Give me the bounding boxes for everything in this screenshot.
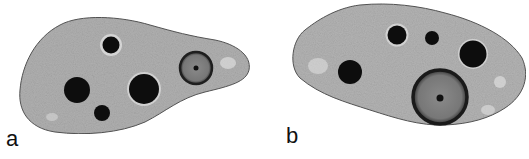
nucleolus bbox=[437, 95, 444, 102]
vacuole bbox=[338, 60, 362, 84]
vacuole bbox=[103, 37, 120, 54]
vacuole bbox=[388, 26, 407, 45]
figure-illustration bbox=[0, 0, 529, 159]
vacuole bbox=[460, 41, 487, 68]
nucleolus bbox=[194, 66, 199, 71]
panel-label-b: b bbox=[286, 125, 298, 147]
cell-a bbox=[20, 17, 250, 133]
panel-label-a: a bbox=[6, 128, 18, 150]
vacuole bbox=[129, 74, 159, 104]
vacuole bbox=[94, 105, 110, 121]
vacuole bbox=[425, 31, 439, 45]
vacuole bbox=[64, 77, 90, 103]
cell-b bbox=[293, 4, 526, 125]
